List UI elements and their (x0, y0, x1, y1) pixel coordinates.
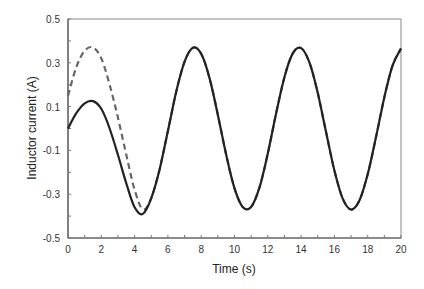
x-tick-label: 0 (65, 244, 71, 255)
chart: 02468101214161820 0.50.30.1-0.1-0.3-0.5 … (0, 0, 424, 289)
plot-frame (68, 19, 401, 238)
line-chart: 02468101214161820 0.50.30.1-0.1-0.3-0.5 … (0, 0, 424, 289)
x-tick-label: 14 (296, 244, 308, 255)
x-tick-label: 2 (99, 244, 105, 255)
y-tick-label: 0.1 (46, 102, 60, 113)
x-axis-label: Time (s) (212, 262, 256, 276)
x-tick-label: 20 (395, 244, 407, 255)
y-tick-label: 0.3 (46, 58, 60, 69)
x-tick-label: 10 (229, 244, 241, 255)
x-tick-label: 16 (329, 244, 341, 255)
x-tick-label: 4 (132, 244, 138, 255)
series-solid-line (68, 47, 401, 214)
y-axis-ticks: 0.50.30.1-0.1-0.3-0.5 (43, 14, 71, 244)
y-tick-label: 0.5 (46, 14, 60, 25)
y-tick-label: -0.5 (43, 233, 61, 244)
x-tick-label: 8 (198, 244, 204, 255)
x-tick-label: 6 (165, 244, 171, 255)
y-axis-label: Inductor current (A) (25, 76, 39, 179)
x-tick-label: 18 (362, 244, 374, 255)
plot-border (68, 19, 401, 238)
x-tick-label: 12 (262, 244, 274, 255)
y-tick-label: -0.3 (43, 189, 61, 200)
series-layer (68, 47, 401, 214)
y-tick-label: -0.1 (43, 145, 61, 156)
